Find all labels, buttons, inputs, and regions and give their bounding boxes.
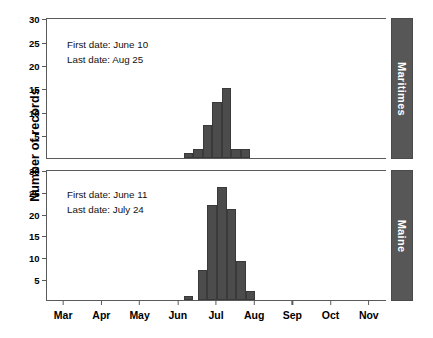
x-tick-label: Jun: [168, 309, 187, 321]
bar: [207, 205, 217, 300]
strip-text-maine: Maine: [396, 219, 408, 252]
y-tick: 30: [29, 162, 46, 180]
bar: [217, 187, 227, 300]
strip-label-maritimes: Maritimes: [391, 18, 413, 159]
bar: [222, 88, 232, 158]
x-tick-mark: [254, 301, 255, 305]
y-tick: 5: [34, 127, 46, 145]
annotation-first-date: First date: June 10: [67, 37, 148, 52]
bar: [231, 149, 241, 158]
x-tick-mark: [292, 301, 293, 305]
y-tick-label: 15: [29, 231, 42, 242]
y-tick-label: 15: [29, 84, 42, 95]
y-tick-label: 10: [29, 108, 42, 119]
y-tick-mark: [42, 280, 46, 281]
x-tick: Jul: [208, 301, 223, 321]
y-tick-label: 30: [29, 166, 42, 177]
y-tick-label: 20: [29, 210, 42, 221]
annotation-maine: First date: June 11 Last date: July 24: [67, 187, 147, 217]
annotation-last-date: Last date: Aug 25: [67, 52, 148, 67]
y-tick: 10: [29, 103, 46, 121]
bar: [184, 296, 194, 300]
x-tick-label: Mar: [54, 309, 73, 321]
y-tick: 10: [29, 249, 46, 267]
x-tick-mark: [139, 301, 140, 305]
y-tick-label: 20: [29, 61, 42, 72]
y-tick-mark: [42, 258, 46, 259]
y-tick-mark: [42, 236, 46, 237]
x-tick-label: Nov: [359, 309, 379, 321]
y-tick-label: 25: [29, 38, 42, 49]
x-tick-mark: [63, 301, 64, 305]
x-tick: Apr: [92, 301, 110, 321]
y-tick-label: 5: [34, 275, 42, 286]
x-tick-mark: [101, 301, 102, 305]
y-tick-mark: [42, 66, 46, 67]
y-tick: 25: [29, 184, 46, 202]
y-tick-label: 25: [29, 188, 42, 199]
x-tick-label: Sep: [283, 309, 302, 321]
y-tick-mark: [42, 113, 46, 114]
y-tick: 20: [29, 205, 46, 223]
x-tick: Sep: [283, 301, 302, 321]
y-tick-mark: [42, 19, 46, 20]
plot-area-maritimes: First date: June 10 Last date: Aug 25: [46, 18, 386, 159]
x-tick: Aug: [244, 301, 264, 321]
annotation-maritimes: First date: June 10 Last date: Aug 25: [67, 37, 148, 67]
bar: [227, 209, 237, 300]
y-tick-mark: [42, 43, 46, 44]
y-tick-label: 5: [34, 131, 42, 142]
x-tick: Nov: [359, 301, 379, 321]
x-tick-label: Aug: [244, 309, 264, 321]
x-tick-mark: [330, 301, 331, 305]
y-tick-label: 10: [29, 253, 42, 264]
x-tick-label: Jul: [208, 309, 223, 321]
x-tick: Oct: [322, 301, 340, 321]
strip-text-maritimes: Maritimes: [396, 61, 408, 115]
x-axis-ticks: MarAprMayJunJulAugSepOctNov: [46, 301, 386, 335]
y-tick: 5: [34, 270, 46, 288]
bar: [236, 261, 246, 300]
x-tick: Mar: [54, 301, 73, 321]
y-tick-mark: [42, 171, 46, 172]
bar: [246, 291, 256, 300]
y-tick-mark: [42, 89, 46, 90]
x-tick-label: Apr: [92, 309, 110, 321]
x-tick-label: Oct: [322, 309, 340, 321]
panel-maine: First date: June 11 Last date: July 24 5…: [46, 170, 386, 301]
x-tick: May: [129, 301, 149, 321]
y-tick-mark: [42, 215, 46, 216]
bar: [193, 149, 203, 158]
bar: [198, 270, 208, 300]
y-tick: 15: [29, 80, 46, 98]
y-tick: 15: [29, 227, 46, 245]
y-tick: 20: [29, 57, 46, 75]
x-tick-mark: [177, 301, 178, 305]
annotation-first-date: First date: June 11: [67, 187, 147, 202]
x-tick: Jun: [168, 301, 187, 321]
strip-label-maine: Maine: [391, 170, 413, 301]
panel-maritimes: First date: June 10 Last date: Aug 25 51…: [46, 18, 386, 159]
bar: [241, 149, 251, 158]
plot-area-maine: First date: June 11 Last date: July 24: [46, 170, 386, 301]
histogram-figure: Number of records First date: June 10 La…: [0, 0, 433, 338]
y-tick: 25: [29, 33, 46, 51]
annotation-last-date: Last date: July 24: [67, 202, 147, 217]
y-tick-mark: [42, 193, 46, 194]
bar: [203, 125, 213, 158]
bar: [184, 153, 194, 158]
x-tick-label: May: [129, 309, 149, 321]
x-tick-mark: [215, 301, 216, 305]
bar: [212, 102, 222, 158]
y-tick-mark: [42, 136, 46, 137]
y-tick-label: 30: [29, 14, 42, 25]
x-tick-mark: [368, 301, 369, 305]
y-tick: 30: [29, 10, 46, 28]
